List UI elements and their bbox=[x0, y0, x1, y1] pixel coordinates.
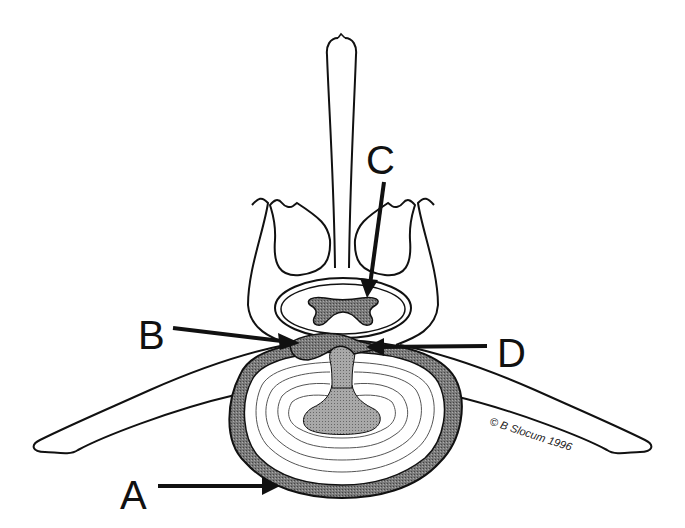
label-c: C bbox=[366, 140, 395, 180]
vertebral-arch bbox=[270, 200, 330, 275]
spinal-cord bbox=[308, 297, 378, 325]
label-a: A bbox=[120, 475, 147, 515]
spinous-process bbox=[327, 38, 356, 268]
label-b: B bbox=[138, 315, 165, 355]
label-d: D bbox=[497, 333, 526, 373]
vertebra-diagram bbox=[0, 0, 685, 528]
